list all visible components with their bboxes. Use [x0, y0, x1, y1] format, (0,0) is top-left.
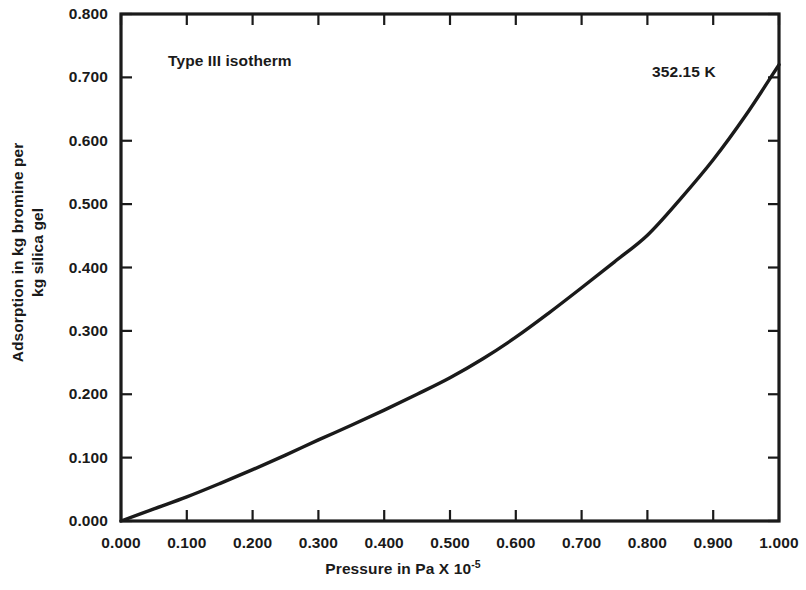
- x-tick-label: 0.800: [628, 534, 667, 552]
- x-tick-label: 0.000: [101, 534, 140, 552]
- y-tick-label: 0.700: [30, 68, 108, 86]
- x-axis-title: Pressure in Pa X 10-5: [0, 560, 806, 578]
- y-axis-ticks: [121, 14, 779, 521]
- x-tick-label: 0.400: [365, 534, 404, 552]
- x-tick-label: 0.500: [430, 534, 469, 552]
- x-tick-label: 0.900: [694, 534, 733, 552]
- x-tick-label: 0.200: [233, 534, 272, 552]
- x-tick-label: 1.000: [759, 534, 798, 552]
- plot-canvas: [0, 0, 806, 590]
- y-tick-label: 0.100: [30, 449, 108, 467]
- data-series-layer: [121, 65, 779, 521]
- y-axis-title: Adsorption in kg bromine per kg silica g…: [8, 92, 49, 412]
- isotherm-type-annotation: Type III isotherm: [168, 52, 292, 70]
- y-tick-label: 0.800: [30, 5, 108, 23]
- x-axis-title-text: Pressure in Pa X 10: [325, 560, 471, 577]
- x-axis-title-exponent: -5: [471, 558, 481, 570]
- y-axis-title-line2: kg silica gel: [29, 208, 46, 297]
- y-tick-label: 0.000: [30, 512, 108, 530]
- y-axis-title-line1: Adsorption in kg bromine per: [9, 143, 26, 363]
- x-tick-label: 0.600: [496, 534, 535, 552]
- temperature-annotation: 352.15 K: [652, 63, 716, 81]
- x-tick-label: 0.100: [167, 534, 206, 552]
- x-tick-label: 0.700: [562, 534, 601, 552]
- x-tick-label: 0.300: [299, 534, 338, 552]
- axes-frame: [121, 14, 779, 521]
- chart-figure: 0.0000.1000.2000.3000.4000.5000.6000.700…: [0, 0, 806, 590]
- x-axis-ticks: [121, 14, 779, 521]
